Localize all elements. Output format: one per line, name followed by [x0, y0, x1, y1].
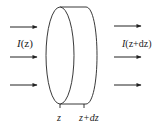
outgoing-arrows [114, 26, 141, 85]
slab-back-face [86, 7, 97, 104]
incoming-intensity-label: I(z) [16, 37, 33, 50]
incoming-arrows [10, 27, 37, 85]
slab-front-face [46, 7, 74, 104]
position-label-z-plus-dz: z+dz [78, 112, 99, 123]
slab-diagram: I(z) z z+dz I(z+dz) [0, 0, 158, 132]
outgoing-intensity-label: I(z+dz) [121, 38, 152, 50]
position-label-z: z [56, 112, 61, 123]
cylinder-slab [46, 7, 97, 104]
